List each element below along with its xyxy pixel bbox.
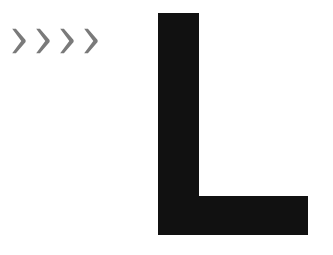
letter-l-glyph xyxy=(158,13,308,235)
chevron-right-icon xyxy=(83,28,99,54)
chevron-right-icon xyxy=(35,28,51,54)
screenshot-canvas xyxy=(0,0,333,255)
chevron-arrow-group xyxy=(11,28,111,54)
chevron-right-icon xyxy=(11,28,27,54)
chevron-right-icon xyxy=(59,28,75,54)
